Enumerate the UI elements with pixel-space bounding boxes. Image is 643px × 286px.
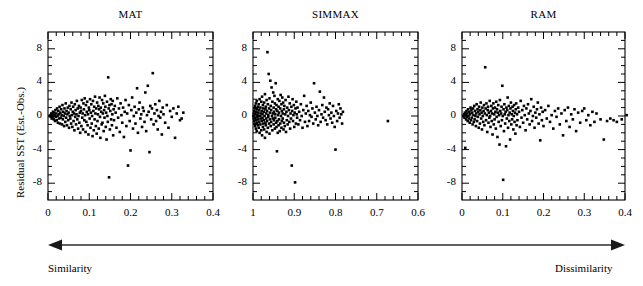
data-point xyxy=(61,104,64,107)
data-point xyxy=(499,110,502,113)
data-point xyxy=(164,121,167,124)
data-point xyxy=(88,117,91,120)
data-point xyxy=(283,125,286,128)
data-point xyxy=(264,93,267,96)
data-point xyxy=(67,111,70,114)
data-point xyxy=(541,119,544,122)
data-point xyxy=(174,137,177,140)
data-point xyxy=(258,109,261,112)
data-point xyxy=(520,116,523,119)
data-point xyxy=(317,124,320,127)
data-point xyxy=(255,102,258,105)
data-point xyxy=(104,95,107,98)
data-point xyxy=(271,100,274,103)
data-point xyxy=(146,114,149,117)
data-point xyxy=(585,119,588,122)
data-point xyxy=(177,105,180,108)
data-point xyxy=(288,102,291,105)
data-point xyxy=(298,111,301,114)
data-point xyxy=(278,111,281,114)
data-point xyxy=(488,100,491,103)
data-point xyxy=(62,118,65,121)
data-point xyxy=(72,120,75,123)
data-point xyxy=(333,115,336,118)
data-point xyxy=(291,98,294,101)
data-point xyxy=(552,127,555,130)
data-point xyxy=(75,123,78,126)
data-point xyxy=(482,110,485,113)
data-point xyxy=(485,102,488,105)
data-point xyxy=(147,84,150,87)
data-point xyxy=(300,103,303,106)
data-point xyxy=(64,102,67,105)
data-point xyxy=(130,109,133,112)
data-point xyxy=(68,105,71,108)
data-point xyxy=(262,111,265,114)
data-point xyxy=(471,123,474,126)
data-point xyxy=(262,104,265,107)
data-point xyxy=(265,131,268,134)
data-point xyxy=(504,122,507,125)
data-point xyxy=(481,128,484,131)
data-point xyxy=(479,122,482,125)
data-point xyxy=(182,111,185,114)
data-point xyxy=(555,116,558,119)
data-point xyxy=(541,111,544,114)
data-point xyxy=(180,117,183,120)
data-point xyxy=(300,115,303,118)
data-point xyxy=(487,121,490,124)
data-point xyxy=(292,114,295,117)
data-point xyxy=(111,113,114,116)
data-point xyxy=(321,104,324,107)
data-point xyxy=(90,122,93,125)
data-point xyxy=(572,118,575,121)
panel-mat xyxy=(48,32,213,200)
x-tick-label: 0.1 xyxy=(483,206,523,218)
data-point xyxy=(524,129,527,132)
data-point xyxy=(288,121,291,124)
data-point xyxy=(99,116,102,119)
data-point xyxy=(497,104,500,107)
y-tick-label: 4 xyxy=(428,74,456,86)
data-point xyxy=(96,101,99,104)
data-point xyxy=(509,138,512,141)
data-point xyxy=(338,103,341,106)
data-point xyxy=(496,108,499,111)
data-point xyxy=(159,116,162,119)
data-point xyxy=(595,112,598,115)
data-point xyxy=(282,128,285,131)
data-point xyxy=(255,127,258,130)
data-point xyxy=(521,109,524,112)
data-point xyxy=(512,115,515,118)
data-point xyxy=(106,115,109,118)
data-point xyxy=(283,108,286,111)
data-point xyxy=(81,116,84,119)
data-point xyxy=(128,120,131,123)
data-point xyxy=(85,104,88,107)
data-point xyxy=(261,95,264,98)
data-point xyxy=(122,106,125,109)
y-tick-label: 0 xyxy=(219,108,247,120)
y-tick-label: -4 xyxy=(428,142,456,154)
data-point xyxy=(339,107,342,110)
data-point xyxy=(96,120,99,123)
data-point xyxy=(559,123,562,126)
data-point xyxy=(290,164,293,167)
data-point xyxy=(281,112,284,115)
data-point xyxy=(464,147,467,150)
data-point xyxy=(328,114,331,117)
y-tick-label: 4 xyxy=(219,74,247,86)
data-point xyxy=(142,110,145,113)
data-point xyxy=(577,111,580,114)
data-point xyxy=(316,115,319,118)
data-point xyxy=(68,126,71,129)
data-point xyxy=(468,121,471,124)
data-point xyxy=(123,111,126,114)
data-point xyxy=(160,111,163,114)
data-point xyxy=(483,124,486,127)
data-point xyxy=(258,121,261,124)
data-point xyxy=(263,101,266,104)
data-point xyxy=(537,101,540,104)
data-point xyxy=(545,117,548,120)
data-point xyxy=(515,124,518,127)
